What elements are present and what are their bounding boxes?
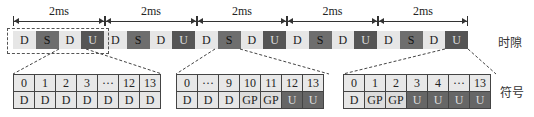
symbol-table-3: 01234···13 DGPGPUUUU (343, 74, 491, 109)
symbol-row-label: 符号 (500, 83, 524, 100)
symbol-table-2: 0···910111213 DDDGPGPUU (176, 74, 324, 109)
symbol-table-1: 0123···1213 DDDDDDD (13, 74, 161, 109)
